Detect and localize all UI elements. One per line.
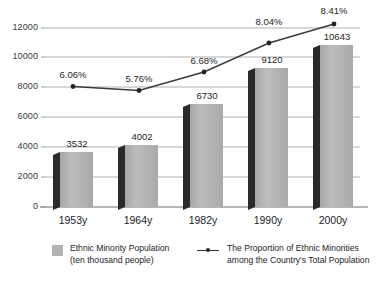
legend-bar-swatch: [52, 245, 63, 256]
legend-line-marker-icon: [206, 248, 210, 252]
legend-bar-label-line2: (ten thousand people): [70, 255, 169, 267]
legend-bar-label-line1: Ethnic Minority Population: [70, 243, 169, 255]
y-tick-8000: 8000: [0, 81, 38, 91]
y-axis-ticks: [41, 28, 46, 207]
y-tick-2000: 2000: [0, 171, 38, 181]
bar-1964y[interactable]: [118, 145, 158, 210]
bar-1953y[interactable]: [53, 152, 93, 210]
x-tick-1964y: 1964y: [108, 214, 168, 226]
bar-1990y[interactable]: [248, 68, 288, 210]
y-tick-6000: 6000: [0, 111, 38, 121]
bar-1982y[interactable]: [183, 104, 223, 210]
bar-value-1982y: 6730: [178, 90, 236, 101]
x-tick-1953y: 1953y: [43, 214, 103, 226]
pct-value-1982y: 6.68%: [175, 55, 233, 66]
bar-value-1964y: 4002: [113, 131, 171, 142]
legend-line-entry[interactable]: The Proportion of Ethnic Minorities amon…: [227, 243, 369, 266]
y-tick-0: 0: [0, 201, 38, 211]
bar-value-2000y: 10643: [308, 31, 366, 42]
y-tick-4000: 4000: [0, 141, 38, 151]
x-tick-1982y: 1982y: [173, 214, 233, 226]
legend-line-label-line1: The Proportion of Ethnic Minorities: [227, 243, 369, 255]
chart-container: 12000 10000 8000 6000 4000 2000 0 3532 4…: [0, 0, 382, 282]
bar-value-1990y: 9120: [243, 54, 301, 65]
y-tick-12000: 12000: [0, 22, 38, 32]
legend-bar-entry[interactable]: Ethnic Minority Population (ten thousand…: [70, 243, 169, 266]
bar-value-1953y: 3532: [48, 138, 106, 149]
pct-value-2000y: 8.41%: [305, 5, 363, 16]
legend-line-label-line2: among the Country's Total Population: [227, 255, 369, 267]
pct-value-1953y: 6.06%: [44, 69, 102, 80]
x-tick-2000y: 2000y: [303, 214, 363, 226]
pct-value-1990y: 8.04%: [240, 16, 298, 27]
bar-2000y[interactable]: [313, 45, 353, 210]
x-tick-1990y: 1990y: [238, 214, 298, 226]
y-tick-10000: 10000: [0, 51, 38, 61]
pct-value-1964y: 5.76%: [110, 73, 168, 84]
